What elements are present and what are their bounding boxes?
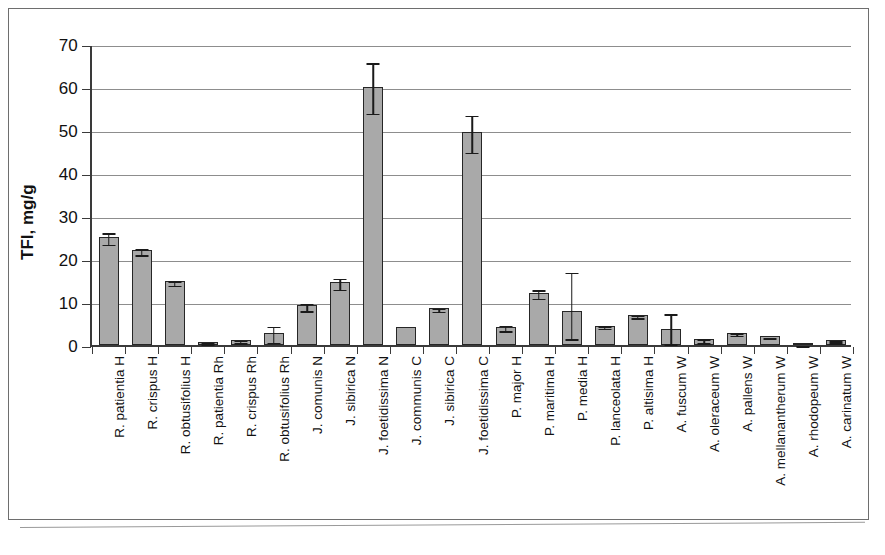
x-tick-label: P. lanceolata H (608, 356, 623, 446)
y-tick-20 (82, 261, 91, 262)
y-tick-50 (82, 132, 91, 133)
bar[interactable] (99, 237, 119, 345)
x-tick (92, 347, 93, 354)
x-tick (787, 347, 788, 354)
x-tick-label: A. rhodopeum W (806, 356, 821, 457)
bar[interactable] (529, 293, 549, 345)
bar[interactable] (793, 343, 813, 345)
bar-slot[interactable] (754, 46, 787, 345)
bar[interactable] (165, 281, 185, 345)
bar-slot[interactable] (522, 46, 555, 345)
bar-slot[interactable] (191, 46, 224, 345)
error-bar-cap-lower (830, 343, 843, 345)
error-bar-cap-lower (565, 339, 578, 341)
x-tick-label: P. media H (575, 356, 590, 421)
bar-slot[interactable] (654, 46, 687, 345)
x-tick (324, 347, 325, 354)
x-tick-label: J. communis C (409, 356, 424, 445)
y-tick-label-60: 60 (18, 79, 78, 99)
error-bar-cap-lower (499, 331, 512, 333)
error-bar-cap-lower (367, 114, 380, 116)
x-tick-label: A. pallens W (740, 356, 755, 432)
error-bar-cap-upper (135, 249, 148, 251)
bar-slot[interactable] (456, 46, 489, 345)
bar-slot[interactable] (621, 46, 654, 345)
error-bar-cap-lower (267, 343, 280, 345)
error-bar-cap-lower (731, 336, 744, 338)
bar[interactable] (132, 250, 152, 345)
error-bar-line (273, 327, 275, 343)
error-bar-cap-upper (466, 116, 479, 118)
bar[interactable] (363, 87, 383, 345)
bar-slot[interactable] (357, 46, 390, 345)
x-tick (688, 347, 689, 354)
bar[interactable] (330, 282, 350, 345)
x-tick (820, 347, 821, 354)
x-tick (621, 347, 622, 354)
error-bar-cap-upper (334, 279, 347, 281)
y-tick-label-70: 70 (18, 36, 78, 56)
error-bar-line (670, 314, 672, 344)
x-tick (125, 347, 126, 354)
bar-slot[interactable] (787, 46, 820, 345)
bar-slot[interactable] (588, 46, 621, 345)
error-bar-cap-upper (532, 290, 545, 292)
bar[interactable] (429, 308, 449, 345)
bar[interactable] (396, 327, 416, 345)
x-tick (853, 347, 854, 354)
error-bar-cap-upper (665, 314, 678, 316)
bar[interactable] (462, 132, 482, 345)
bar-slot[interactable] (291, 46, 324, 345)
error-bar-cap-upper (565, 273, 578, 275)
error-bar-cap-lower (301, 311, 314, 313)
x-tick-label: J. comunis N (310, 356, 325, 434)
bar-slot[interactable] (158, 46, 191, 345)
bar-slot[interactable] (721, 46, 754, 345)
x-tick (224, 347, 225, 354)
bar-slot[interactable] (324, 46, 357, 345)
error-bar-line (339, 279, 341, 290)
error-bar-cap-lower (698, 343, 711, 345)
x-tick-label: R. patientia Rh (211, 356, 226, 445)
bar-slot[interactable] (555, 46, 588, 345)
error-bar-cap-lower (135, 255, 148, 257)
bar-slot[interactable] (820, 46, 853, 345)
error-bar-cap-upper (631, 316, 644, 318)
error-bar-cap-lower (797, 346, 810, 348)
x-tick-label: R. crispus H (145, 356, 160, 430)
y-tick-70 (82, 46, 91, 47)
x-tick-label: R. crispus Rh (244, 356, 259, 437)
error-bar-cap-lower (466, 153, 479, 155)
bar-slot[interactable] (224, 46, 257, 345)
error-bar-cap-upper (499, 326, 512, 328)
bar-slot[interactable] (92, 46, 125, 345)
y-tick-10 (82, 304, 91, 305)
x-axis-tick-labels: R. patientia HR. crispus HR. obtusifoliu… (90, 356, 851, 526)
y-tick-label-20: 20 (18, 251, 78, 271)
x-tick (423, 347, 424, 354)
y-tick-label-50: 50 (18, 122, 78, 142)
bar-slot[interactable] (125, 46, 158, 345)
bar-slot[interactable] (489, 46, 522, 345)
x-tick (257, 347, 258, 354)
bar-slot[interactable] (423, 46, 456, 345)
error-bar-cap-lower (102, 245, 115, 247)
error-bar-line (108, 233, 110, 244)
x-tick (158, 347, 159, 354)
x-tick-label: R. obtusifolius H (178, 356, 193, 454)
error-bar-cap-lower (234, 343, 247, 345)
error-bar-cap-lower (433, 312, 446, 314)
y-tick-60 (82, 89, 91, 90)
y-tick-label-30: 30 (18, 208, 78, 228)
bar-slot[interactable] (390, 46, 423, 345)
x-tick (291, 347, 292, 354)
error-bar-cap-lower (631, 318, 644, 320)
error-bar-cap-upper (267, 327, 280, 329)
error-bar-cap-upper (234, 341, 247, 343)
bar-slot[interactable] (688, 46, 721, 345)
x-tick (489, 347, 490, 354)
y-tick-30 (82, 218, 91, 219)
bar-slot[interactable] (257, 46, 290, 345)
y-axis-tick-labels: 010203040506070 (16, 46, 78, 347)
x-tick-label: A. mellanantherum W (773, 356, 788, 486)
